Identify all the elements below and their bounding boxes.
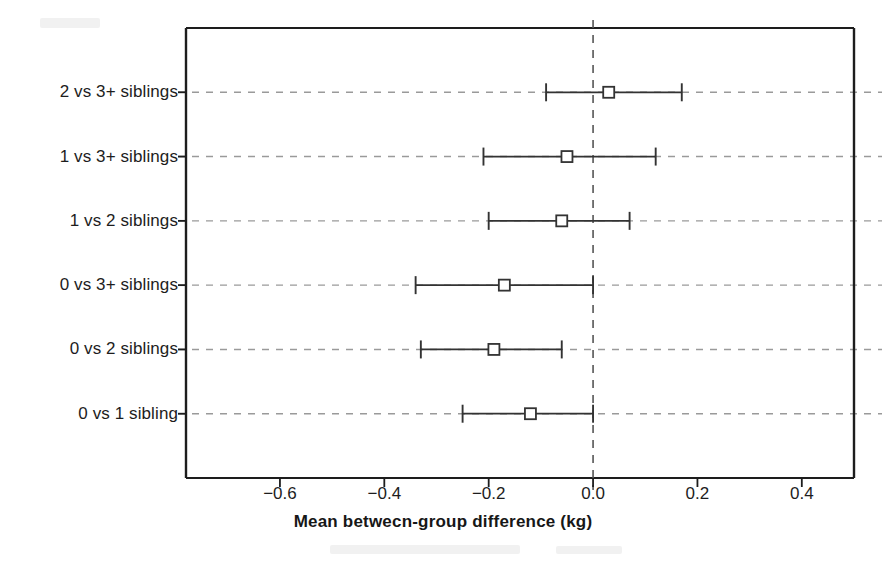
plot-area bbox=[0, 0, 886, 573]
mean-marker bbox=[561, 151, 572, 162]
x-axis-tick-label: 0.0 bbox=[581, 484, 605, 504]
x-axis-title: Mean betwecn-group difference (kg) bbox=[0, 512, 886, 532]
data-series-row bbox=[546, 83, 682, 101]
x-axis-tick-label: −0.2 bbox=[472, 484, 506, 504]
data-series-row bbox=[421, 340, 562, 358]
x-axis-tick-label: −0.4 bbox=[368, 484, 402, 504]
forest-plot-figure: 2 vs 3+ siblings1 vs 3+ siblings1 vs 2 s… bbox=[0, 0, 886, 573]
data-series-row bbox=[416, 276, 593, 294]
mean-marker bbox=[603, 87, 614, 98]
data-series-row bbox=[463, 405, 593, 423]
data-series-row bbox=[489, 212, 630, 230]
mean-marker bbox=[556, 215, 567, 226]
mean-marker bbox=[499, 280, 510, 291]
mean-marker bbox=[488, 344, 499, 355]
mean-marker bbox=[525, 408, 536, 419]
data-series-row bbox=[483, 148, 655, 166]
x-axis-tick-label: −0.6 bbox=[263, 484, 297, 504]
x-axis-tick-label: 0.2 bbox=[686, 484, 710, 504]
x-axis-tick-label: 0.4 bbox=[790, 484, 814, 504]
